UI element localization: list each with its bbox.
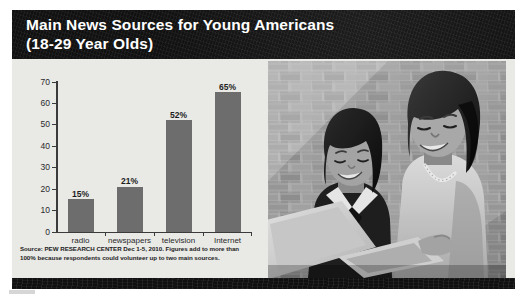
y-axis-tick-label: 0 (45, 227, 50, 236)
bar-television: 52% (166, 120, 192, 231)
y-axis-tick-mark (52, 189, 56, 190)
x-axis-tick-mark (203, 232, 204, 236)
x-axis-label-radio: radio (72, 237, 90, 245)
footer-texture (12, 278, 515, 289)
footer-banner (12, 278, 515, 289)
y-axis-tick-mark (52, 167, 56, 168)
y-axis-tick-mark (52, 232, 56, 233)
photo-illustration (268, 61, 506, 278)
x-axis-tick-mark (154, 232, 155, 236)
source-note-line-2: respondents could volunteer up to two ma… (64, 254, 220, 261)
bar-radio: 15% (68, 199, 94, 231)
header-banner: Main News Sources for Young Americans (1… (12, 10, 515, 59)
y-axis-tick-mark (52, 124, 56, 125)
page-title-line-2: (18-29 Year Olds) (26, 34, 456, 53)
y-axis-line (56, 81, 58, 233)
y-axis-tick-mark (52, 103, 56, 104)
y-axis-tick-mark (52, 146, 56, 147)
x-axis-label-television: television (162, 237, 195, 245)
y-axis-tick-mark (52, 82, 56, 83)
x-axis-tick-mark (105, 232, 106, 236)
bar-value-label: 52% (170, 111, 187, 120)
bar-internet: 65% (215, 92, 241, 231)
bar-value-label: 15% (72, 190, 89, 199)
footer-artifact-mark (9, 290, 35, 294)
y-axis-tick-label: 20 (41, 184, 50, 193)
bar-value-label: 21% (121, 177, 138, 186)
page-title: Main News Sources for Young Americans (1… (26, 15, 456, 53)
y-axis-tick-label: 70 (41, 77, 50, 86)
y-axis-tick-mark (52, 210, 56, 211)
x-axis-label-internet: Internet (214, 237, 241, 245)
source-note: Source: PEW RESEARCH CENTER Dec 1-5, 201… (20, 245, 252, 262)
x-axis-label-newspapers: newspapers (108, 237, 151, 245)
y-axis-tick-label: 30 (41, 163, 50, 172)
y-axis-tick-label: 50 (41, 120, 50, 129)
y-axis-tick-label: 10 (41, 206, 50, 215)
y-axis-tick-label: 40 (41, 142, 50, 151)
x-axis-tick-mark (251, 232, 252, 236)
photo-two-young-women-with-laptop (268, 61, 506, 278)
bar-value-label: 65% (219, 83, 236, 92)
y-axis-tick-label: 60 (41, 99, 50, 108)
infographic-root: Main News Sources for Young Americans (1… (0, 0, 527, 298)
bar-newspapers: 21% (117, 187, 143, 232)
page-title-line-1: Main News Sources for Young Americans (26, 16, 334, 33)
bar-chart-plot-area: 010203040506070 15%21%52%65% radionewspa… (56, 81, 252, 233)
